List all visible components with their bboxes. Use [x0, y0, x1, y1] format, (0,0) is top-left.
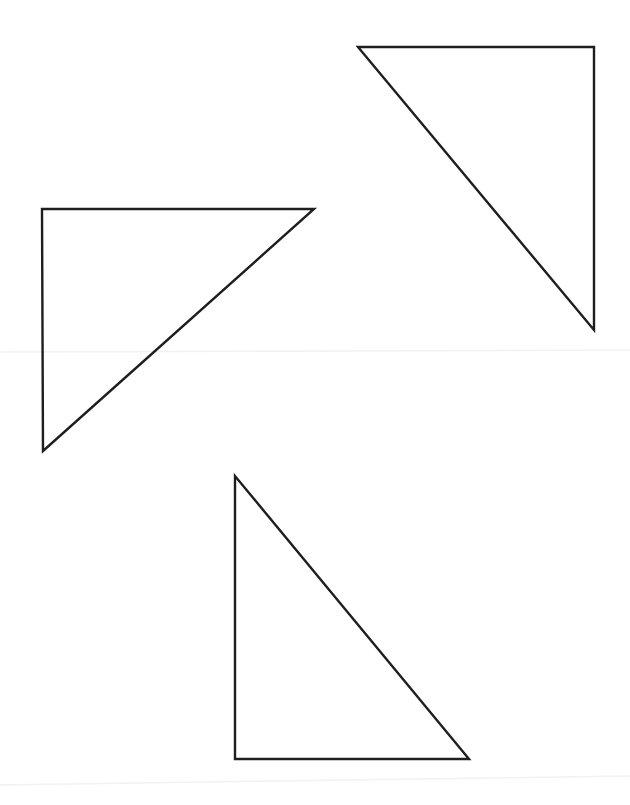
scan-artifact-line	[0, 776, 630, 785]
diagram-canvas	[0, 0, 630, 805]
triangle-left	[42, 209, 314, 451]
scan-artifact-line	[0, 350, 630, 352]
triangle-bottom	[235, 476, 469, 759]
triangle-top-right	[358, 47, 594, 330]
